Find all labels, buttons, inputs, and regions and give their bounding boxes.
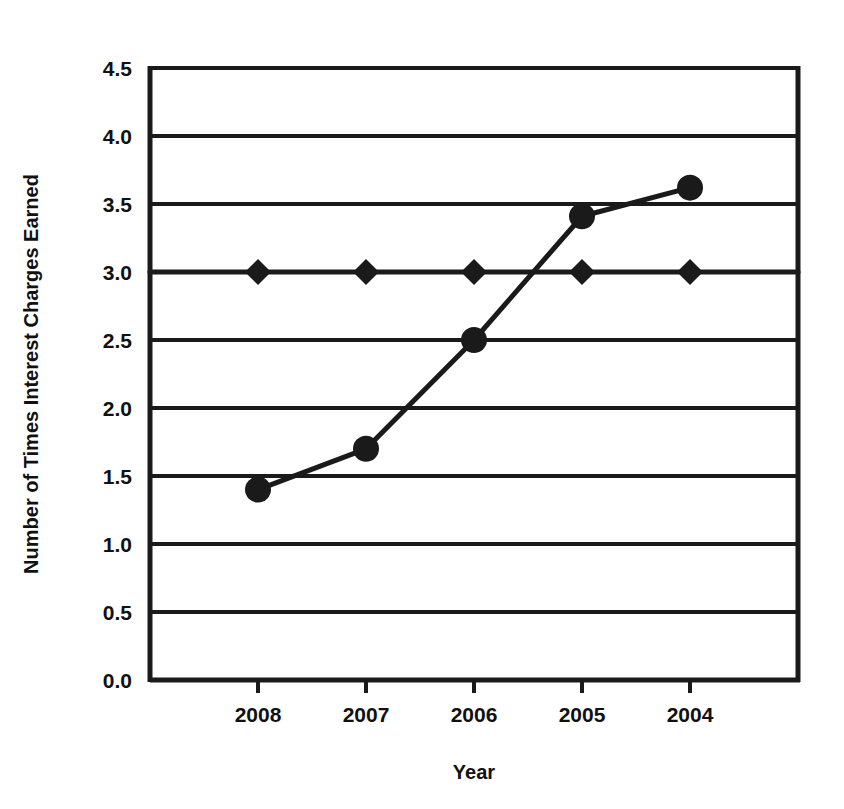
x-axis-title: Year [453, 761, 495, 783]
y-tick-label: 0.5 [103, 601, 133, 624]
data-point-marker [245, 477, 271, 503]
y-tick-label: 3.0 [103, 261, 132, 284]
y-tick-label: 3.5 [103, 193, 133, 216]
x-tick-label: 2004 [667, 703, 714, 726]
data-point-marker [677, 175, 703, 201]
data-point-marker [353, 436, 379, 462]
data-point-marker [461, 327, 487, 353]
y-tick-label: 4.5 [103, 57, 133, 80]
y-tick-label: 4.0 [103, 125, 132, 148]
chart-container: 0.00.51.01.52.02.53.03.54.04.5 200820072… [0, 0, 844, 809]
x-tick-label: 2006 [451, 703, 498, 726]
y-tick-label: 0.0 [103, 669, 132, 692]
y-tick-label: 2.0 [103, 397, 132, 420]
data-point-marker [569, 203, 595, 229]
x-tick-label: 2007 [343, 703, 390, 726]
y-tick-label: 1.5 [103, 465, 133, 488]
line-chart: 0.00.51.01.52.02.53.03.54.04.5 200820072… [0, 0, 844, 809]
y-axis-title: Number of Times Interest Charges Earned [20, 174, 42, 574]
x-tick-label: 2008 [235, 703, 282, 726]
y-tick-label: 1.0 [103, 533, 132, 556]
y-tick-label: 2.5 [103, 329, 133, 352]
x-tick-label: 2005 [559, 703, 606, 726]
